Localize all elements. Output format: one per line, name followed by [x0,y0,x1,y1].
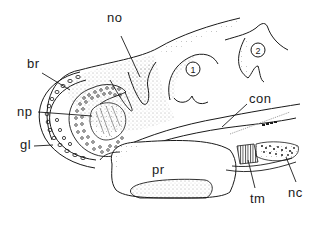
label-br: br [27,57,40,70]
lobe-2: 2 [225,24,288,83]
pr-body [100,140,236,198]
region-1-number: 1 [190,65,195,75]
region-2-number: 2 [255,46,260,56]
label-nc: nc [288,186,303,199]
lobe-1: 1 [169,54,218,103]
label-pr: pr [152,163,165,176]
anatomy-drawing: 1 2 [0,0,319,228]
nc-cluster [256,142,299,161]
diagram-canvas: 1 2 [0,0,319,228]
label-con: con [249,92,271,105]
label-np: np [17,105,32,118]
label-no: no [107,11,122,24]
label-tm: tm [250,192,265,205]
label-gl: gl [20,138,31,151]
